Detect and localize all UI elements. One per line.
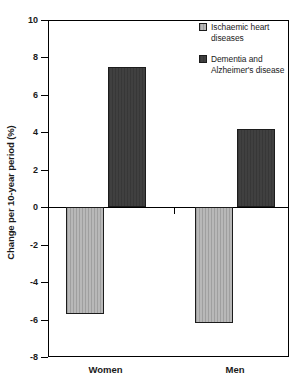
legend-swatch-icon: [199, 55, 207, 63]
y-axis-tick: [41, 170, 48, 171]
bar-texture: [109, 68, 145, 206]
legend-swatch-icon: [199, 23, 207, 31]
y-axis-tick: [41, 245, 48, 246]
y-axis-tick-label: -2: [14, 240, 38, 250]
y-axis-tick-label: -8: [14, 352, 38, 362]
y-axis-tick: [41, 132, 48, 133]
y-axis-tick: [41, 320, 48, 321]
y-axis-tick: [41, 57, 48, 58]
legend-label: Dementia and Alzheimer's disease: [211, 54, 285, 75]
bar-texture: [238, 130, 274, 207]
y-axis-tick-label: -4: [14, 277, 38, 287]
x-axis-category-label: Women: [88, 364, 122, 375]
bar: [237, 129, 275, 208]
y-axis-tick: [41, 357, 48, 358]
x-axis-category-label: Men: [226, 364, 245, 375]
bar: [195, 207, 233, 323]
legend: Ischaemic heart diseasesDementia and Alz…: [199, 22, 285, 86]
bar-chart-figure: Change per 10-year period (%) 1086420-2-…: [0, 0, 302, 385]
bar-texture: [67, 208, 103, 313]
legend-entry: Dementia and Alzheimer's disease: [199, 54, 285, 75]
y-axis-tick: [41, 282, 48, 283]
legend-swatch-texture: [200, 56, 206, 62]
y-axis-tick-label: 8: [14, 52, 38, 62]
bar-texture: [196, 208, 232, 322]
category-separator-tick: [174, 207, 175, 214]
y-axis-tick-label: -6: [14, 315, 38, 325]
y-axis-tick-label: 4: [14, 127, 38, 137]
y-axis-tick: [41, 95, 48, 96]
y-axis-tick-label: 10: [14, 15, 38, 25]
y-axis-tick-label: 6: [14, 90, 38, 100]
bar: [108, 67, 146, 207]
y-axis-tick: [41, 20, 48, 21]
bar: [66, 207, 104, 314]
legend-label: Ischaemic heart diseases: [211, 22, 285, 43]
y-axis-tick: [41, 207, 48, 208]
legend-swatch-texture: [200, 24, 206, 30]
y-axis-tick-label: 2: [14, 165, 38, 175]
legend-entry: Ischaemic heart diseases: [199, 22, 285, 43]
y-axis-tick-label: 0: [14, 202, 38, 212]
